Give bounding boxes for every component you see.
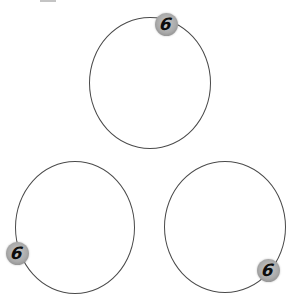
badge-number-bottom-left: 6: [9, 245, 23, 262]
number-badge-icon: 6: [257, 259, 280, 282]
badge-number-top: 6: [158, 16, 172, 33]
circle-bottom-left: [15, 161, 135, 294]
number-badge-icon: 6: [155, 13, 178, 36]
top-edge-artifact: [40, 0, 56, 2]
number-badge-icon: 6: [6, 242, 29, 265]
circle-top: [89, 17, 211, 149]
badge-number-bottom-right: 6: [260, 262, 274, 279]
